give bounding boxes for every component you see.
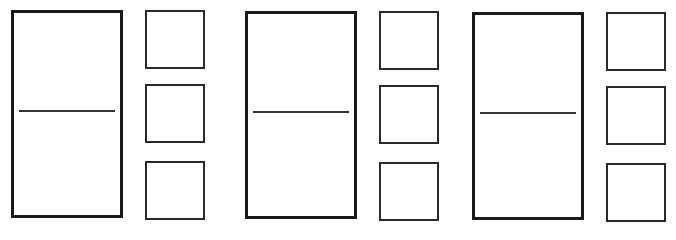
answer-square-1-1 [145, 10, 205, 69]
domino-divider [480, 112, 576, 114]
domino-1 [11, 10, 123, 218]
domino-2 [245, 11, 357, 219]
answer-square-2-2 [379, 85, 439, 144]
domino-divider [253, 111, 349, 113]
answer-square-3-1 [606, 12, 666, 71]
answer-square-2-1 [379, 11, 439, 70]
answer-square-1-2 [145, 84, 205, 143]
domino-divider [19, 110, 115, 112]
answer-square-3-3 [606, 163, 666, 222]
answer-square-3-2 [606, 86, 666, 145]
domino-3 [472, 12, 584, 220]
answer-square-1-3 [145, 161, 205, 220]
answer-square-2-3 [379, 162, 439, 221]
